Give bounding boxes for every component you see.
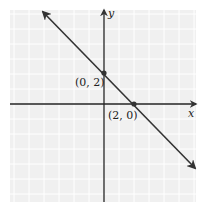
y-axis-label: y xyxy=(107,7,115,20)
point-label-2-0: (2, 0) xyxy=(108,109,138,122)
coordinate-plane: (0, 2) (2, 0) x y xyxy=(0,0,206,211)
point-2-0 xyxy=(131,101,136,106)
grid-background xyxy=(10,10,196,202)
point-label-0-2: (0, 2) xyxy=(75,76,105,89)
x-axis-label: x xyxy=(188,107,195,120)
point-0-2 xyxy=(101,70,106,75)
